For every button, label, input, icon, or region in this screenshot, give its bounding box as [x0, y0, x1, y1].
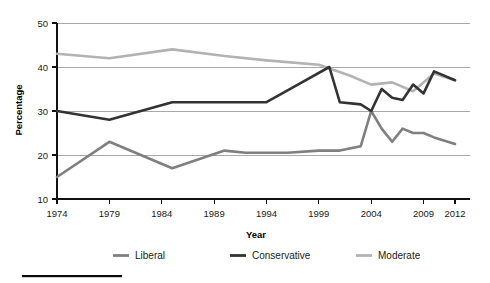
- y-tick-label-20: 20: [37, 150, 48, 161]
- x-tick-label-1984: 1984: [151, 208, 172, 219]
- x-axis-tick-labels: 197419791984198919941999200420092012: [46, 208, 465, 219]
- y-axis-tick-labels: 1020304050: [37, 18, 48, 205]
- x-tick-label-1999: 1999: [308, 208, 329, 219]
- y-tick-label-10: 10: [37, 194, 48, 205]
- y-tick-label-40: 40: [37, 62, 48, 73]
- x-tick-label-2004: 2004: [361, 208, 382, 219]
- x-tick-label-2009: 2009: [413, 208, 434, 219]
- footer-divider-rule: [22, 275, 122, 277]
- line-chart: 1020304050 19741979198419891994199920042…: [0, 0, 490, 283]
- series-line-liberal: [57, 111, 455, 177]
- legend-label-moderate: Moderate: [378, 250, 421, 261]
- y-tick-label-30: 30: [37, 106, 48, 117]
- series-line-moderate: [57, 49, 455, 91]
- gridlines: [57, 23, 470, 199]
- legend-label-conservative: Conservative: [252, 250, 311, 261]
- chart-container: 1020304050 19741979198419891994199920042…: [0, 0, 490, 283]
- y-axis-title: Percentage: [13, 84, 24, 135]
- series-line-conservative: [57, 67, 455, 120]
- chart-legend: LiberalConservativeModerate: [113, 250, 421, 261]
- x-axis-title: Year: [246, 229, 266, 240]
- data-series: [57, 49, 455, 177]
- legend-label-liberal: Liberal: [135, 250, 165, 261]
- x-tick-label-1989: 1989: [204, 208, 225, 219]
- x-tick-label-1974: 1974: [46, 208, 67, 219]
- x-tick-label-2012: 2012: [444, 208, 465, 219]
- y-tick-label-50: 50: [37, 18, 48, 29]
- x-tick-label-1994: 1994: [256, 208, 277, 219]
- x-tick-label-1979: 1979: [99, 208, 120, 219]
- tick-marks: [52, 23, 455, 204]
